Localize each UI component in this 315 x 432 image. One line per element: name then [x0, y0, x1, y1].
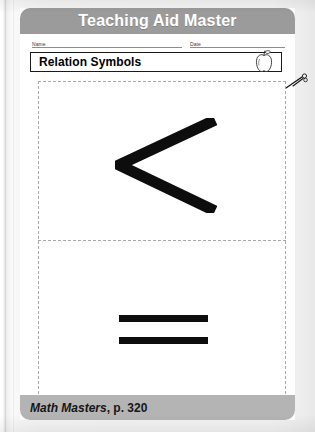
scissors-icon [284, 72, 310, 92]
name-field[interactable]: Name [32, 36, 182, 48]
lesson-title: Relation Symbols [39, 55, 141, 69]
footer-band: Math Masters, p. 320 [20, 395, 295, 420]
equals-bar-top [119, 315, 208, 322]
name-label: Name [32, 41, 46, 47]
book-gutter-line-secondary [13, 0, 14, 432]
lesson-title-box: Relation Symbols [30, 52, 282, 72]
equals-symbol [119, 308, 209, 352]
name-date-row: Name Date [20, 34, 295, 50]
worksheet-page: Teaching Aid Master Name Date Relation S… [0, 0, 315, 432]
date-field[interactable]: Date [190, 36, 285, 48]
date-label: Date [190, 41, 201, 47]
equals-bar-bottom [119, 337, 208, 344]
footer-citation: Math Masters, p. 320 [30, 401, 147, 415]
less-than-symbol [115, 118, 217, 213]
footer-page-number: , p. 320 [107, 401, 148, 415]
book-gutter-line [5, 0, 6, 432]
apple-icon [251, 49, 277, 75]
header-band: Teaching Aid Master [20, 8, 295, 34]
footer-source-name: Math Masters [30, 401, 107, 415]
cut-out-divider [38, 240, 286, 241]
worksheet-sheet: Teaching Aid Master Name Date Relation S… [20, 8, 295, 420]
page-title: Teaching Aid Master [78, 12, 237, 30]
